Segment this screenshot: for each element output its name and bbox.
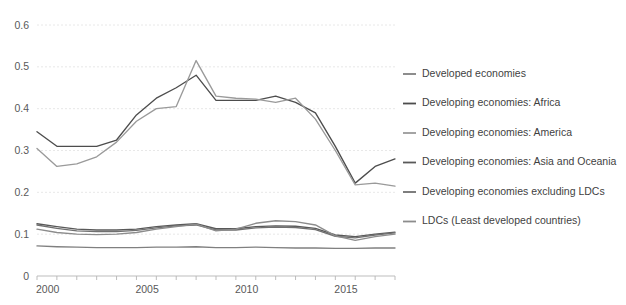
y-tick-label: 0.2 — [14, 186, 29, 198]
x-tick-label: 2000 — [36, 283, 60, 295]
y-tick-label: 0.4 — [14, 102, 29, 114]
y-tick-label: 0.5 — [14, 60, 29, 72]
chart-legend: Developed economiesDeveloping economies:… — [403, 67, 617, 227]
y-tick-label: 0 — [23, 270, 29, 282]
series-line — [37, 221, 395, 241]
legend-item-label[interactable]: LDCs (Least developed countries) — [422, 214, 581, 226]
line-chart: 00.10.20.30.40.50.6 2000200520102015 Dev… — [0, 0, 626, 305]
chart-page: 00.10.20.30.40.50.6 2000200520102015 Dev… — [0, 0, 626, 305]
legend-item-label[interactable]: Developing economies: Asia and Oceania — [422, 155, 617, 167]
series-line — [37, 75, 395, 183]
series-line — [37, 246, 395, 249]
x-tick-label: 2010 — [235, 283, 259, 295]
x-axis — [37, 276, 395, 280]
y-tick-label: 0.3 — [14, 144, 29, 156]
legend-item-label[interactable]: Developed economies — [422, 67, 526, 79]
series-line — [37, 61, 395, 187]
x-tick-label: 2015 — [334, 283, 358, 295]
y-tick-label: 0.6 — [14, 19, 29, 31]
x-tick-label: 2005 — [135, 283, 159, 295]
x-axis-tick-labels: 2000200520102015 — [36, 283, 358, 295]
y-tick-label: 0.1 — [14, 228, 29, 240]
data-series — [37, 61, 395, 249]
gridlines — [37, 25, 395, 234]
legend-item-label[interactable]: Developing economies excluding LDCs — [422, 185, 605, 197]
legend-item-label[interactable]: Developing economies: America — [422, 126, 572, 138]
y-axis-tick-labels: 00.10.20.30.40.50.6 — [14, 19, 29, 282]
legend-item-label[interactable]: Developing economies: Africa — [422, 96, 560, 108]
